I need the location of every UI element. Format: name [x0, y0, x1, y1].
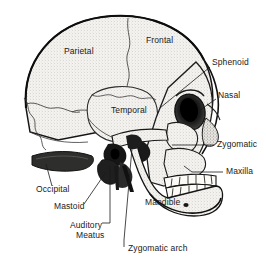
label-zygomatic-arch: Zygomatic arch — [128, 244, 188, 254]
label-frontal: Frontal — [146, 36, 173, 46]
mental-foramen — [183, 203, 188, 207]
label-occipital: Occipital — [36, 185, 70, 195]
label-mastoid: Mastoid — [54, 202, 84, 212]
leader-zygomatic-arch — [124, 148, 132, 247]
leader-mastoid — [84, 172, 106, 204]
label-maxilla: Maxilla — [226, 167, 253, 177]
label-nasal: Nasal — [218, 91, 240, 101]
label-zygomatic: Zygomatic — [217, 140, 257, 150]
label-temporal: Temporal — [111, 106, 147, 116]
label-auditory-meatus-line2: Meatus — [76, 231, 104, 241]
skull-diagram: Parietal Frontal Temporal Mandible Sphen… — [0, 0, 266, 265]
skull-illustration — [0, 0, 266, 265]
label-parietal: Parietal — [64, 47, 94, 57]
label-sphenoid: Sphenoid — [212, 58, 249, 68]
occipital-shadow — [32, 152, 94, 172]
label-mandible: Mandible — [145, 198, 180, 208]
